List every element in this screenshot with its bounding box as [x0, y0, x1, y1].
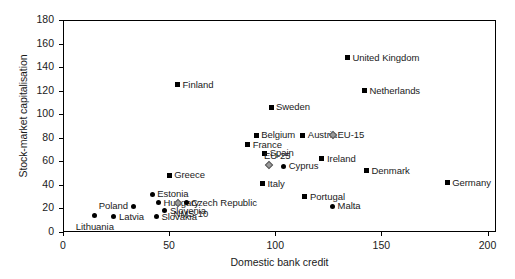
data-point-label: EU-15: [338, 128, 365, 141]
y-axis-tick: 60: [0, 161, 63, 162]
y-tick-label: 40: [42, 178, 54, 191]
y-tick-mark: [59, 161, 63, 162]
y-tick-label: 80: [42, 131, 54, 144]
data-point-label: EU-25: [264, 149, 291, 162]
y-axis-tick: 180: [0, 20, 63, 21]
y-tick-mark: [59, 138, 63, 139]
circle-marker-icon: [330, 204, 335, 209]
circle-marker-icon: [150, 192, 155, 197]
y-axis-tick: 80: [0, 138, 63, 139]
y-tick-mark: [59, 208, 63, 209]
y-axis-tick: 160: [0, 44, 63, 45]
data-point-label: Germany: [452, 176, 491, 189]
square-marker-icon: [245, 142, 250, 147]
y-tick-label: 120: [36, 84, 54, 97]
scatter-chart: Stock-market capitalisation 020406080100…: [0, 0, 515, 279]
y-tick-label: 140: [36, 60, 54, 73]
y-axis-tick: 0: [0, 232, 63, 233]
data-point-label: Netherlands: [369, 84, 420, 97]
x-tick-mark: [381, 232, 382, 236]
x-tick-mark: [63, 232, 64, 236]
square-marker-icon: [362, 88, 367, 93]
data-point-label: Finland: [183, 78, 214, 91]
data-point-label: Cyprus: [289, 159, 319, 172]
y-tick-label: 20: [42, 201, 54, 214]
y-tick-mark: [59, 20, 63, 21]
square-marker-icon: [260, 181, 265, 186]
data-point-label: Latvia: [119, 210, 144, 223]
data-point-label: Malta: [338, 199, 361, 212]
x-axis-title: Domestic bank credit: [63, 256, 496, 268]
square-marker-icon: [175, 82, 180, 87]
y-tick-mark: [59, 44, 63, 45]
x-tick-label: 200: [468, 239, 508, 252]
data-point-label: Ireland: [327, 152, 356, 165]
data-point-label: United Kingdom: [352, 51, 419, 64]
x-tick-label: 150: [361, 239, 401, 252]
data-point-label: Sweden: [276, 100, 310, 113]
data-point-label: Lithuania: [76, 220, 114, 233]
x-tick-mark: [275, 232, 276, 236]
data-point-label: Italy: [268, 177, 285, 190]
y-axis-tick: 140: [0, 67, 63, 68]
y-tick-label: 160: [36, 37, 54, 50]
data-point-label: Greece: [174, 168, 205, 181]
square-marker-icon: [302, 194, 307, 199]
x-tick-label: 50: [149, 239, 189, 252]
y-axis-title: Stock-market capitalisation: [14, 0, 32, 232]
square-marker-icon: [300, 133, 305, 138]
y-tick-label: 60: [42, 154, 54, 167]
y-tick-mark: [59, 185, 63, 186]
x-tick-label: 100: [255, 239, 295, 252]
y-tick-label: 180: [36, 13, 54, 26]
y-tick-mark: [59, 91, 63, 92]
data-point-label: Denmark: [372, 164, 410, 177]
square-marker-icon: [445, 180, 450, 185]
square-marker-icon: [269, 105, 274, 110]
square-marker-icon: [167, 173, 172, 178]
y-tick-label: 0: [48, 225, 54, 238]
circle-marker-icon: [281, 164, 286, 169]
square-marker-icon: [319, 156, 324, 161]
y-axis-tick: 120: [0, 91, 63, 92]
x-tick-label: 0: [43, 239, 83, 252]
square-marker-icon: [364, 168, 369, 173]
x-tick-mark: [488, 232, 489, 236]
y-tick-label: 100: [36, 107, 54, 120]
circle-marker-icon: [131, 204, 136, 209]
y-axis-tick: 100: [0, 114, 63, 115]
data-point-label: Slovakia: [161, 210, 197, 223]
y-tick-mark: [59, 67, 63, 68]
y-axis-tick: 40: [0, 185, 63, 186]
square-marker-icon: [345, 55, 350, 60]
y-tick-mark: [59, 114, 63, 115]
x-tick-mark: [169, 232, 170, 236]
y-axis-tick: 20: [0, 208, 63, 209]
